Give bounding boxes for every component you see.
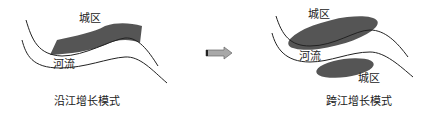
- right-caption: 跨江增长模式: [326, 96, 392, 108]
- right-arrow-icon: [206, 47, 232, 59]
- right-city-label-bottom: 城区: [358, 73, 380, 85]
- right-river-label: 河流: [299, 51, 321, 63]
- left-caption: 沿江增长模式: [54, 96, 120, 108]
- right-panel-graphic: [272, 9, 413, 81]
- left-river-label: 河流: [53, 59, 75, 71]
- left-city-label: 城区: [79, 13, 101, 25]
- diagram: 城区 河流 沿江增长模式 城区 河流 城区 跨江增长模式: [0, 0, 436, 117]
- left-city-area: [50, 23, 142, 55]
- left-panel-graphic: [22, 20, 167, 83]
- right-city-label-top: 城区: [308, 9, 330, 21]
